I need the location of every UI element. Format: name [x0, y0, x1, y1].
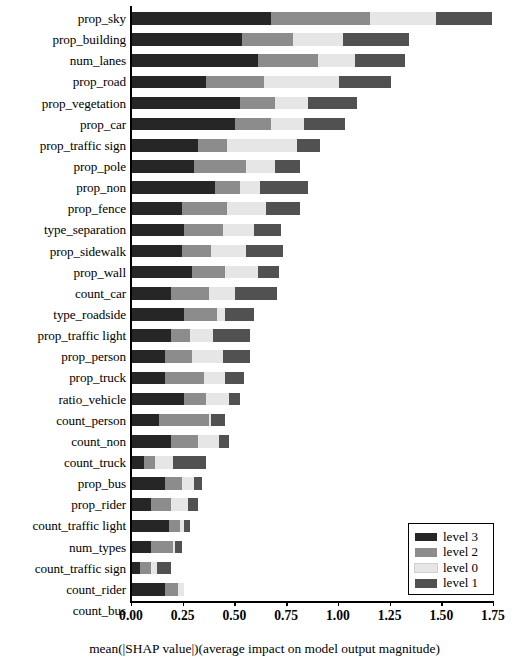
- bar-segment: [206, 76, 264, 89]
- bar-segment: [132, 54, 258, 67]
- legend-swatch: [415, 548, 437, 557]
- stacked-bar: [132, 181, 308, 194]
- stacked-bar: [132, 54, 405, 67]
- bar-segment: [132, 329, 171, 342]
- y-axis-tick-label: prop_sidewalk: [50, 241, 126, 262]
- bar-segment: [370, 12, 436, 25]
- bar-segment: [206, 393, 229, 406]
- x-axis-title: mean(|SHAP value|)(average impact on mod…: [0, 641, 529, 657]
- bar-row: prop_car: [131, 114, 493, 135]
- stacked-bar: [132, 139, 320, 152]
- bar-segment: [192, 266, 225, 279]
- x-axis-tick-label: 1.00: [326, 608, 350, 624]
- bar-segment: [184, 308, 217, 321]
- y-axis-tick-label: prop_car: [80, 114, 126, 135]
- legend-label: level 2: [443, 544, 478, 560]
- stacked-bar: [132, 414, 225, 427]
- bar-segment: [275, 160, 300, 173]
- bar-segment: [132, 139, 198, 152]
- stacked-bar: [132, 308, 254, 321]
- bar-segment: [132, 498, 151, 511]
- legend-item: level 3: [415, 529, 487, 545]
- bar-row: prop_person: [131, 346, 493, 367]
- bar-segment: [219, 435, 229, 448]
- bar-segment: [275, 97, 308, 110]
- bar-segment: [171, 287, 208, 300]
- bar-segment: [264, 76, 338, 89]
- bar-segment: [132, 33, 242, 46]
- legend-swatch: [415, 564, 437, 573]
- bar-segment: [159, 414, 209, 427]
- bar-segment: [190, 329, 213, 342]
- bar-segment: [355, 54, 405, 67]
- bar-segment: [235, 287, 276, 300]
- stacked-bar: [132, 118, 345, 131]
- bar-segment: [240, 181, 261, 194]
- stacked-bar: [132, 12, 492, 25]
- bar-segment: [132, 562, 140, 575]
- bar-segment: [165, 583, 177, 596]
- bar-segment: [182, 477, 194, 490]
- bar-row: count_truck: [131, 452, 493, 473]
- bar-segment: [155, 456, 174, 469]
- bar-segment: [151, 541, 174, 554]
- bar-segment: [254, 224, 281, 237]
- y-axis-tick-label: count_truck: [64, 452, 126, 473]
- stacked-bar: [132, 160, 300, 173]
- bar-segment: [132, 266, 192, 279]
- bar-row: prop_traffic light: [131, 325, 493, 346]
- bar-segment: [308, 97, 358, 110]
- bar-segment: [436, 12, 492, 25]
- bar-row: type_roadside: [131, 304, 493, 325]
- bar-segment: [165, 350, 192, 363]
- bar-row: prop_truck: [131, 367, 493, 388]
- bar-segment: [194, 477, 202, 490]
- y-axis-tick-label: prop_sky: [78, 8, 126, 29]
- bar-row: type_separation: [131, 219, 493, 240]
- stacked-bar: [132, 520, 190, 533]
- x-axis-tick-mark: [390, 601, 391, 606]
- bar-row: prop_pole: [131, 156, 493, 177]
- bar-segment: [297, 139, 320, 152]
- bar-segment: [271, 12, 370, 25]
- bar-segment: [132, 97, 240, 110]
- stacked-bar: [132, 435, 229, 448]
- bar-segment: [132, 372, 165, 385]
- y-axis-tick-label: prop_rider: [71, 494, 126, 515]
- shap-summary-chart: prop_skyprop_buildingnum_lanesprop_roadp…: [0, 0, 529, 664]
- bar-row: count_person: [131, 410, 493, 431]
- bar-segment: [184, 224, 223, 237]
- y-axis-tick-label: count_car: [75, 283, 126, 304]
- y-axis-tick-label: prop_non: [76, 177, 126, 198]
- y-axis-line: [130, 6, 132, 602]
- bar-segment: [258, 266, 279, 279]
- stacked-bar: [132, 456, 206, 469]
- y-axis-tick-label: type_roadside: [53, 304, 126, 325]
- bar-segment: [223, 350, 250, 363]
- y-axis-tick-label: count_person: [56, 410, 126, 431]
- y-axis-tick-label: prop_building: [53, 29, 126, 50]
- x-axis-tick-mark: [131, 601, 132, 606]
- x-axis-tick-mark: [338, 601, 339, 606]
- bar-segment: [246, 160, 275, 173]
- bar-segment: [171, 435, 198, 448]
- bar-segment: [132, 541, 151, 554]
- bar-row: prop_non: [131, 177, 493, 198]
- y-axis-tick-label: prop_traffic light: [38, 325, 126, 346]
- bar-segment: [242, 33, 294, 46]
- bar-row: prop_traffic sign: [131, 135, 493, 156]
- bar-segment: [132, 477, 165, 490]
- x-axis-tick-mark: [183, 601, 184, 606]
- bar-segment: [184, 520, 190, 533]
- bar-segment: [157, 562, 171, 575]
- x-axis-tick-mark: [441, 601, 442, 606]
- x-axis-tick-mark: [493, 601, 494, 606]
- stacked-bar: [132, 202, 300, 215]
- bar-segment: [132, 414, 159, 427]
- bar-segment: [227, 202, 266, 215]
- legend-swatch: [415, 579, 437, 588]
- y-axis-tick-label: type_separation: [44, 219, 126, 240]
- bar-segment: [225, 372, 244, 385]
- x-axis-line: [130, 601, 494, 603]
- bar-row: ratio_vehicle: [131, 389, 493, 410]
